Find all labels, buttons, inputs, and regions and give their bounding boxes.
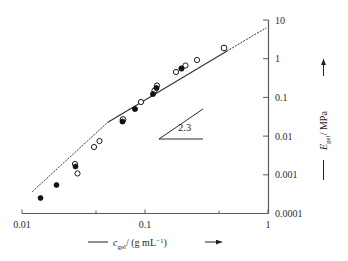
y-axis-subscript: gel	[324, 135, 332, 144]
y-tick-label-3: 0.01	[275, 131, 293, 142]
data-point-open	[173, 69, 178, 74]
data-point-open	[194, 57, 199, 62]
data-point-filled	[150, 91, 155, 96]
data-point-open	[221, 45, 227, 51]
data-point-filled	[154, 85, 159, 90]
data-point-filled	[120, 119, 125, 124]
data-point-filled	[179, 66, 184, 71]
x-tick-label-2: 1	[266, 219, 271, 230]
data-point-open	[138, 99, 143, 104]
y-tick-label-2: 0.1	[275, 92, 288, 103]
x-axis-subscript: gel	[117, 243, 126, 251]
figure-container: 0.01 0.1 1 10 1 0.1 0.01 0.001 0.0001 cg…	[0, 0, 348, 261]
data-point-filled	[73, 164, 78, 169]
y-tick-label-0: 10	[275, 15, 285, 26]
x-tick-label-1: 0.1	[139, 219, 152, 230]
slope-triangle-label: 2.3	[178, 122, 191, 133]
y-axis-symbol: E	[318, 144, 329, 151]
y-tick-label-5: 0.0001	[275, 208, 303, 219]
plot-background	[0, 0, 348, 261]
data-point-filled	[132, 106, 137, 111]
scatter-plot-svg: 0.01 0.1 1 10 1 0.1 0.01 0.001 0.0001 cg…	[0, 0, 348, 261]
data-point-open	[75, 171, 80, 176]
data-point-open	[97, 138, 102, 143]
x-axis-units-close: )	[163, 237, 166, 249]
x-tick-label-0: 0.01	[13, 219, 31, 230]
y-axis-units: / MPa	[318, 111, 329, 136]
y-tick-label-4: 0.001	[275, 169, 298, 180]
data-point-filled	[38, 196, 43, 201]
data-point-filled	[54, 183, 59, 188]
y-tick-label-1: 1	[275, 53, 280, 64]
data-point-open	[91, 144, 96, 149]
x-axis-units: / (g mL	[126, 237, 156, 249]
